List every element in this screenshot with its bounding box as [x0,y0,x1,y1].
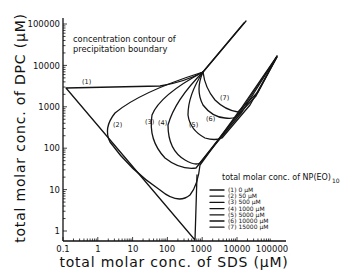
y-tick-label: 1000 [38,102,60,112]
y-tick-labels: 100000 10000 1000 100 10 1 [28,19,60,236]
legend: total molar conc. of NP(EO) 10 (1) 0 μM(… [210,173,340,231]
legend-entries: (1) 0 μM(2) 50 μM(3) 500 μM(4) 1000 μM(5… [210,186,268,231]
annotation-line-1: concentration contour of [73,34,177,44]
y-tick-label: 100000 [28,19,60,29]
curve-5 [188,57,277,140]
curve-7 [203,56,277,112]
curve-label-1: (1) [82,78,91,86]
curve-3 [151,58,276,168]
y-tick-label: 1 [55,226,60,236]
curve-label-6: (6) [206,115,215,123]
x-tick-label: 1 [95,244,100,254]
curve-label-3: (3) [145,118,154,126]
curve-4 [168,58,276,164]
phase-diagram-chart: 100000 10000 1000 100 10 1 0.1 1 10 100 … [0,0,359,279]
curve-label-5: (5) [189,121,198,129]
x-tick-label: 100 [159,244,175,254]
annotation-line-2: precipitation boundary [73,44,168,54]
x-tick-label: 0.1 [56,244,70,254]
x-tick-label: 10 [128,244,139,254]
legend-title-subscript: 10 [332,177,340,184]
x-tick-label: 10000 [223,244,250,254]
curve-label-4: (4) [158,119,167,127]
y-tick-label: 100 [44,143,60,153]
y-axis-title: total molar conc. of DPC (μM) [12,13,28,243]
legend-title: total molar conc. of NP(EO) [222,173,331,182]
y-tick-label: 10 [49,185,60,195]
x-axis-title: total molar conc. of SDS (μM) [59,254,288,270]
curve-label-7: (7) [220,94,229,102]
x-tick-label: 1000 [190,244,212,254]
curve-label-2: (2) [113,121,122,129]
curve-upper-branch [203,23,244,72]
curve-6 [199,57,277,118]
legend-entry-label: (7) 15000 μM [228,223,268,231]
x-tick-label: 100000 [256,244,288,254]
y-tick-label: 10000 [33,61,60,71]
x-tick-labels: 0.1 1 10 100 1000 10000 100000 [56,244,288,254]
